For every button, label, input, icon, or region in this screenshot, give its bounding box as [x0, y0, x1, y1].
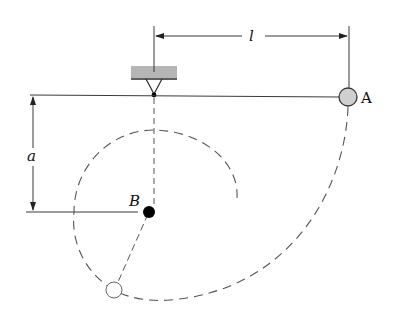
- pivot-bracket: [146, 79, 162, 94]
- pendulum-diagram: l A a B: [0, 0, 399, 318]
- dashed-circle-about-b: [74, 130, 238, 290]
- dashed-string-b: [118, 214, 148, 282]
- label-a: a: [27, 147, 36, 165]
- bob-a: [339, 88, 357, 106]
- arrowhead-l-right: [339, 33, 348, 39]
- arrowhead-a-bottom: [30, 202, 36, 211]
- peg-b: [143, 206, 155, 218]
- pivot-point: [152, 93, 157, 98]
- arrowhead-l-left: [155, 33, 164, 39]
- string-horizontal: [30, 95, 340, 97]
- label-b: B: [128, 192, 140, 210]
- bob-final-position: [106, 282, 122, 298]
- label-a-point: A: [360, 89, 372, 107]
- label-l: l: [249, 27, 254, 45]
- arrowhead-a-top: [30, 96, 36, 105]
- dashed-swing-path: [118, 107, 348, 301]
